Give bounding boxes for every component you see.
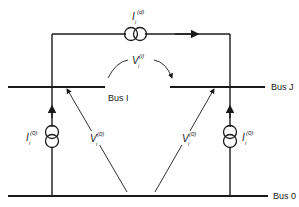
voltage-across-label: V (i) i xyxy=(132,53,144,69)
source-right-label: I (0) i xyxy=(242,130,253,146)
svg-text:i: i xyxy=(138,63,140,69)
svg-text:i: i xyxy=(135,19,137,25)
source-left-label: I (0) i xyxy=(26,130,37,146)
voltage-arrow-across xyxy=(108,60,172,78)
svg-text:(d): (d) xyxy=(137,9,144,15)
bus-i-label: Bus I xyxy=(108,93,129,103)
current-source-right-icon xyxy=(224,126,237,148)
bus-0-label: Bus 0 xyxy=(273,191,296,201)
circuit-diagram: Bus I Bus J Bus 0 I (d) i V (i) i I (0) … xyxy=(0,0,299,207)
bus-j-label: Bus J xyxy=(271,82,294,92)
svg-text:(0): (0) xyxy=(189,131,196,137)
svg-text:i: i xyxy=(29,140,31,146)
current-source-top-icon xyxy=(125,28,147,41)
svg-text:(0): (0) xyxy=(246,130,253,136)
source-top-label: I (d) i xyxy=(132,9,144,25)
svg-text:(0): (0) xyxy=(30,130,37,136)
voltage-right-label: V (0) i xyxy=(180,131,200,147)
current-source-left-icon xyxy=(46,126,59,148)
voltage-left-label: V (0) i xyxy=(89,131,109,147)
svg-text:(0): (0) xyxy=(97,131,104,137)
svg-text:i: i xyxy=(245,140,247,146)
svg-text:(i): (i) xyxy=(139,53,144,59)
